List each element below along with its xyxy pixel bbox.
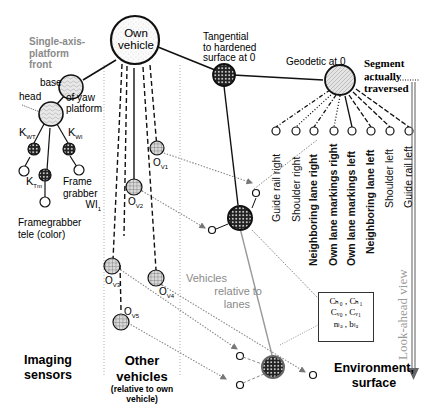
param-ch: Cₕ₀ , Cₕ₁ <box>319 296 373 307</box>
v1-sub: V1 <box>161 164 168 170</box>
own-vehicle-label: Own vehicle <box>118 27 154 51</box>
kwl-sub: Wl <box>75 134 82 140</box>
env-line2: surface <box>334 376 414 391</box>
lane-label-neighboring-left: Neighboring lane left <box>364 150 376 254</box>
geodetic-node <box>325 65 355 95</box>
vehicle-v2-node <box>126 179 142 195</box>
lane-label-guide-rail-left: Guide rail left <box>402 146 414 208</box>
kwr-sub: WT <box>26 134 35 140</box>
lane-label-own-markings-right: Own lane markings right <box>327 143 339 266</box>
param-cv: Cᵥ₀ , Cᵥ₁ <box>319 307 373 318</box>
v1-main: O <box>153 157 161 168</box>
platform-line3: front <box>29 59 85 71</box>
tangential-line1: Tangential <box>203 32 256 43</box>
ktm-label: KTm <box>26 176 42 189</box>
v5-main: O <box>124 306 132 317</box>
param-nb: nₗₐ , bₗₐ <box>319 319 373 330</box>
lane-label-shoulder-left: Shoulder left <box>383 149 395 208</box>
yaw-line2: platform <box>66 103 102 114</box>
lane-label-own-markings-left: Own lane markings left <box>345 151 357 266</box>
section-other-vehicles-sub: (relative to own vehicle) <box>100 384 184 404</box>
frame-grabber-sub: 1 <box>98 206 101 212</box>
frame-grabber-label: Frame grabber WI1 <box>63 176 101 213</box>
v4-main: O <box>159 286 167 297</box>
segment-traversed-label: Segment actually traversed <box>364 57 409 95</box>
frame-grabber-line1: Frame <box>63 176 101 188</box>
platform-head-node <box>39 102 63 126</box>
vehicle-lane-node <box>228 206 252 230</box>
yaw-platform-label: of yaw platform <box>66 92 102 114</box>
ktm-sub: Tm <box>33 183 42 189</box>
vehicle-v4-label: OV4 <box>159 287 174 299</box>
camera-kwl-node <box>63 143 75 155</box>
section-imaging-sensors: Imaging sensors <box>24 353 72 383</box>
lookahead-label: Look-ahead view <box>395 269 411 360</box>
vehicle-v3-node <box>104 258 120 274</box>
segment-line3: traversed <box>364 82 409 95</box>
environment-surface-node <box>262 356 284 378</box>
vehicle-v4-node <box>148 270 164 286</box>
tangential-line3: surface at 0 <box>203 53 256 64</box>
tangential-label: Tangential to hardened surface at 0 <box>203 32 256 64</box>
lane-label-neighboring-right: Neighboring lane right <box>307 154 319 266</box>
vehicles-relative-label: Vehicles relative to lanes <box>186 272 262 312</box>
base-label: base <box>40 78 62 89</box>
tele-line1: Framegrabber <box>18 217 81 229</box>
other-sub-line1: (relative to own <box>100 384 184 394</box>
other-sub-line2: vehicle) <box>100 394 184 404</box>
tangential-node <box>213 64 235 86</box>
camera-kwr-node <box>28 143 40 155</box>
v3-main: O <box>105 275 113 286</box>
section-environment-surface: Environment, surface <box>334 361 414 391</box>
lane-parameters-box: Cₕ₀ , Cₕ₁ Cᵥ₀ , Cᵥ₁ nₗₐ , bₗₐ <box>318 292 374 342</box>
framegrabber-tele-label: Framegrabber tele (color) <box>18 217 81 240</box>
platform-line1: Single-axis- <box>29 36 85 48</box>
vehicle-v5-label: OV5 <box>124 307 139 319</box>
other-line2: vehicles <box>104 369 180 385</box>
v4-sub: V4 <box>167 293 174 299</box>
own-vehicle-line1: Own <box>118 27 154 39</box>
vehicle-v3-label: OV3 <box>105 276 120 288</box>
frame-grabber-line3: WI <box>85 199 97 210</box>
platform-line2: platform <box>29 48 85 60</box>
head-label: head <box>19 92 41 103</box>
v2-sub: V2 <box>136 203 143 209</box>
frame-grabber-line2: grabber <box>63 188 101 200</box>
imaging-line2: sensors <box>24 368 72 383</box>
v5-sub: V5 <box>132 313 139 319</box>
segment-line1: Segment <box>364 57 409 70</box>
env-line1: Environment, <box>334 361 414 376</box>
section-other-vehicles: Other vehicles <box>104 353 180 384</box>
geodetic-label: Geodetic at 0 <box>286 57 345 68</box>
vehicle-v1-label: OV1 <box>153 158 168 170</box>
own-vehicle-line2: vehicle <box>118 39 154 51</box>
vehicle-v2-label: OV2 <box>128 197 143 209</box>
vehicle-v1-node <box>150 141 164 155</box>
lane-label-guide-rail-right: Guide rail right <box>270 154 282 222</box>
other-line1: Other <box>104 353 180 369</box>
vr-line2: relative to <box>186 285 262 298</box>
tele-line2: tele (color) <box>18 229 81 241</box>
kwr-label: KWT <box>19 127 36 140</box>
segment-line2: actually <box>364 70 409 83</box>
lane-label-shoulder-right: Shoulder right <box>290 157 302 222</box>
imaging-line1: Imaging <box>24 353 72 368</box>
platform-title: Single-axis- platform front <box>29 36 85 71</box>
yaw-line1: of yaw <box>66 92 102 103</box>
v3-sub: V3 <box>113 282 120 288</box>
vr-line3: lanes <box>186 298 262 311</box>
kwl-label: KWl <box>68 127 82 140</box>
v2-main: O <box>128 196 136 207</box>
vr-line1: Vehicles <box>186 272 262 285</box>
